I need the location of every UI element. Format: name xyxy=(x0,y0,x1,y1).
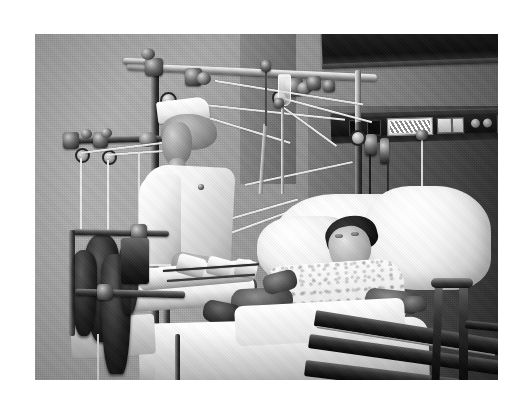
patient-eye-right xyxy=(351,232,359,236)
iv-pole xyxy=(281,102,284,194)
traction-knob-top-mid xyxy=(197,72,211,85)
bed-rail-post-right xyxy=(459,278,468,380)
panel-gauge-secondary xyxy=(452,117,464,133)
cord-anchor xyxy=(416,130,428,140)
traction-knob-left-a xyxy=(81,129,92,139)
bed-leg-left xyxy=(175,334,180,380)
traction-weight-box xyxy=(121,238,149,284)
traction-clamp-left-end xyxy=(63,132,79,149)
traction-drop-cord-b xyxy=(107,160,109,234)
traction-lower-clamp-b xyxy=(97,284,113,300)
traction-pulley-left-b xyxy=(102,150,117,165)
traction-pulley-far-right xyxy=(350,130,366,146)
panel-cord xyxy=(369,154,371,194)
bed-rail-cap xyxy=(431,278,473,288)
iv-hanger xyxy=(261,60,271,72)
iv-bottle-clamp xyxy=(274,98,284,108)
traction-clamp-extra xyxy=(307,76,321,90)
iv-tubing xyxy=(265,68,267,126)
traction-knob-left-b xyxy=(101,128,112,138)
gas-fitting xyxy=(365,134,377,156)
panel-gauge xyxy=(437,117,452,133)
patient-hand xyxy=(401,296,427,312)
page-root xyxy=(0,0,531,404)
nurse-collar-pin xyxy=(198,184,204,190)
traction-clamp-top-left xyxy=(145,58,163,76)
wall-outlet-left xyxy=(497,115,498,133)
traction-drop-cord-a xyxy=(80,158,82,230)
gas-fitting-secondary xyxy=(380,138,389,164)
patient-eye-left xyxy=(335,234,343,238)
traction-lower-post xyxy=(69,230,75,336)
traction-weight-cord xyxy=(97,334,99,380)
traction-clamp-extra-2 xyxy=(323,80,335,92)
photograph xyxy=(35,34,498,380)
traction-knob-top-left xyxy=(141,48,155,60)
